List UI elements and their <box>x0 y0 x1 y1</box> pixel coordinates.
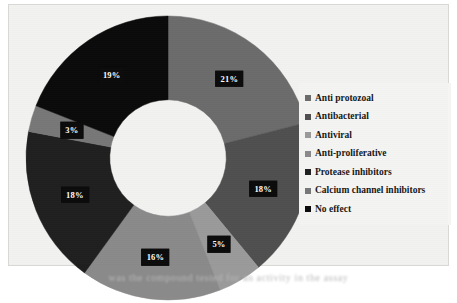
legend-item-label: Anti-proliferative <box>315 149 387 159</box>
figure-panel: 21%18%5%16%18%3%19% Anti protozoalAntiba… <box>8 4 449 266</box>
legend-swatch-icon <box>305 151 311 157</box>
slice-data-label: 18% <box>249 181 277 198</box>
legend-swatch-icon <box>305 95 311 101</box>
legend-item-label: Protease inhibitors <box>315 168 392 178</box>
legend-swatch-icon <box>305 188 311 194</box>
legend-item[interactable]: Anti protozoal <box>305 89 447 108</box>
legend-item[interactable]: Anti-proliferative <box>305 145 447 164</box>
slice-data-label: 18% <box>61 187 89 204</box>
legend-item[interactable]: No effect <box>305 200 447 219</box>
legend-item-label: Anti protozoal <box>315 94 374 104</box>
legend-swatch-icon <box>305 169 311 175</box>
caption-remnant: was the compound tested for an activity … <box>8 272 449 294</box>
legend-swatch-icon <box>305 132 311 138</box>
slice-data-label: 5% <box>207 236 230 253</box>
slice-data-label: 19% <box>98 67 126 84</box>
legend-item-label: No effect <box>315 205 351 215</box>
legend-item-label: Antiviral <box>315 131 352 141</box>
legend-swatch-icon <box>305 206 311 212</box>
legend-item[interactable]: Protease inhibitors <box>305 163 447 182</box>
caption-remnant-text: was the compound tested for an activity … <box>8 272 449 283</box>
legend-item[interactable]: Antiviral <box>305 126 447 145</box>
slice-data-label: 16% <box>142 249 170 266</box>
slice-data-label: 21% <box>216 71 244 88</box>
chart-legend: Anti protozoalAntibacterialAntiviralAnti… <box>299 83 451 225</box>
slice-data-label: 3% <box>60 122 83 139</box>
legend-item-label: Calcium channel inhibitors <box>315 186 425 196</box>
donut-chart: 21%18%5%16%18%3%19% <box>9 5 309 267</box>
legend-item-label: Antibacterial <box>315 112 369 122</box>
legend-item[interactable]: Calcium channel inhibitors <box>305 182 447 201</box>
legend-item[interactable]: Antibacterial <box>305 108 447 127</box>
legend-swatch-icon <box>305 114 311 120</box>
